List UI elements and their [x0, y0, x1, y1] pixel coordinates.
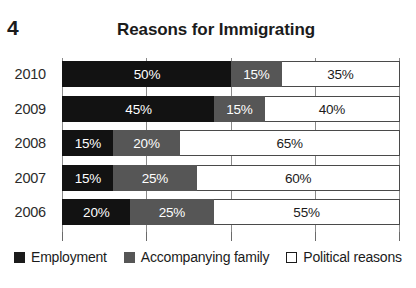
legend-item: Employment [14, 249, 107, 265]
bar-segment-label: 25% [142, 171, 168, 186]
legend-item: Political reasons [286, 249, 402, 265]
filled-square-black-icon [14, 252, 25, 263]
filled-square-gray-icon [124, 252, 135, 263]
bar-segment: 65% [180, 130, 400, 156]
bar-segment-label: 55% [293, 205, 319, 220]
axis-tick [315, 232, 316, 241]
bar-segment: 60% [197, 165, 400, 191]
chart-legend: EmploymentAccompanying familyPolitical r… [14, 246, 408, 268]
bar-segment-label: 20% [133, 136, 159, 151]
legend-item: Accompanying family [124, 249, 269, 265]
legend-item-label: Employment [31, 249, 107, 265]
plot-area: 50%15%35%45%15%40%15%20%65%15%25%60%20%2… [62, 58, 400, 232]
bar-segment-label: 40% [319, 102, 345, 117]
bar-segment: 45% [62, 96, 214, 122]
bar-segment-label: 45% [125, 102, 151, 117]
axis-tick [399, 232, 400, 241]
bar-segment-label: 15% [243, 67, 269, 82]
bar-row: 50%15%35% [62, 61, 400, 87]
bar-segment: 55% [214, 199, 400, 225]
bar-segment: 25% [113, 165, 198, 191]
bar-row: 15%25%60% [62, 165, 400, 191]
bar-segment: 15% [62, 165, 113, 191]
bar-segment: 15% [214, 96, 265, 122]
chart-figure: 4 Reasons for Immigrating 50%15%35%45%15… [0, 0, 416, 288]
bar-segment: 40% [265, 96, 400, 122]
bar-segment-label: 50% [134, 67, 160, 82]
bar-segment: 15% [231, 61, 282, 87]
bar-segment: 20% [113, 130, 181, 156]
bar-segment-label: 25% [159, 205, 185, 220]
bar-segment-label: 60% [285, 171, 311, 186]
year-label: 2006 [0, 204, 46, 220]
bar-segment: 20% [62, 199, 130, 225]
bar-segment-label: 20% [83, 205, 109, 220]
axis-tick [231, 232, 232, 241]
bar-segment-label: 35% [327, 67, 353, 82]
axis-tick [62, 232, 63, 241]
axis-tick [146, 232, 147, 241]
outlined-square-white-icon [286, 252, 297, 263]
bar-segment: 50% [62, 61, 231, 87]
bar-segment: 25% [130, 199, 215, 225]
bar-segment-label: 15% [226, 102, 252, 117]
chart-title: Reasons for Immigrating [56, 20, 376, 40]
bar-segment-label: 65% [276, 136, 302, 151]
bar-row: 15%20%65% [62, 130, 400, 156]
bar-row: 45%15%40% [62, 96, 400, 122]
figure-number: 4 [7, 16, 18, 40]
bar-row: 20%25%55% [62, 199, 400, 225]
year-label: 2010 [0, 66, 46, 82]
bar-segment: 35% [282, 61, 400, 87]
legend-item-label: Political reasons [303, 249, 402, 265]
legend-item-label: Accompanying family [141, 249, 269, 265]
bar-segment-label: 15% [75, 171, 101, 186]
year-label: 2009 [0, 101, 46, 117]
year-label: 2008 [0, 135, 46, 151]
bar-segment: 15% [62, 130, 113, 156]
year-label: 2007 [0, 170, 46, 186]
bar-segment-label: 15% [75, 136, 101, 151]
